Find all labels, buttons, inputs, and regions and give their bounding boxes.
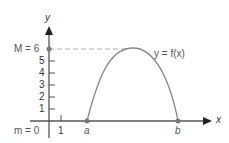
- max-label: M = 6: [14, 44, 39, 54]
- y-tick-4: 4: [39, 68, 45, 78]
- y-tick-3: 3: [39, 80, 45, 90]
- y-tick-5: 5: [39, 56, 45, 66]
- graph-canvas: [0, 0, 229, 143]
- x-axis-arrow-icon: [203, 117, 212, 125]
- curve-label: y = f(x): [154, 49, 185, 59]
- y-tick-1: 1: [39, 104, 45, 114]
- max-point: [47, 47, 52, 52]
- y-ticks: [49, 61, 61, 121]
- y-tick-2: 2: [39, 92, 45, 102]
- label-b: b: [175, 126, 181, 136]
- x-tick-1: 1: [58, 126, 64, 136]
- point-a: [85, 119, 90, 124]
- label-a: a: [84, 126, 90, 136]
- min-label: m = 0: [14, 126, 39, 136]
- x-axis-label: x: [216, 115, 221, 125]
- y-axis-label: y: [45, 13, 50, 23]
- y-axis-arrow-icon: [45, 26, 53, 35]
- point-b: [176, 119, 181, 124]
